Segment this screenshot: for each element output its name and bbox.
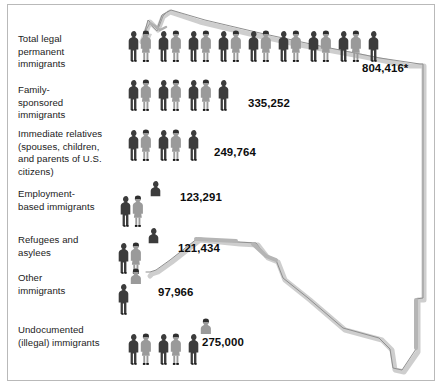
figure-pair	[278, 30, 302, 63]
row-value-undocumented: 275,000	[202, 336, 244, 348]
person-icon	[248, 30, 260, 63]
person-icon	[368, 30, 380, 63]
figure-pair	[120, 195, 144, 228]
row-figures-other-immigrants	[118, 268, 142, 316]
person-icon	[200, 79, 212, 112]
row-figures-total-legal	[128, 30, 380, 63]
figure-pair	[158, 129, 182, 162]
person-icon	[140, 30, 152, 63]
person-icon	[170, 333, 182, 366]
person-icon	[128, 79, 140, 112]
person-icon	[128, 30, 140, 63]
person-icon	[320, 30, 332, 63]
row-value-refugees-asylees: 121,434	[178, 242, 220, 254]
figure-pair	[218, 30, 242, 63]
figure-pair	[248, 30, 272, 63]
row-label-undocumented: Undocumented (illegal) immigrants	[18, 324, 100, 349]
person-icon	[218, 30, 230, 63]
person-icon	[230, 30, 242, 63]
row-value-total-legal: 804,416*	[362, 62, 408, 74]
person-icon	[290, 30, 302, 63]
person-icon	[140, 129, 152, 162]
figure-pair	[128, 79, 152, 112]
figure-pair	[158, 79, 182, 112]
person-icon	[350, 30, 362, 63]
person-icon	[170, 129, 182, 162]
row-label-family-sponsored: Family- sponsored immigrants	[18, 84, 65, 122]
person-icon	[260, 30, 272, 63]
figure-pair-half	[148, 227, 160, 275]
person-icon	[278, 30, 290, 63]
figure-pair	[218, 79, 230, 112]
person-half-icon	[148, 227, 160, 260]
figure-pair	[158, 30, 182, 63]
row-figures-employment-based	[120, 180, 162, 228]
row-figures-family-sponsored	[128, 79, 230, 112]
figure-pair	[188, 79, 212, 112]
row-figures-undocumented	[128, 318, 212, 366]
person-icon	[140, 333, 152, 366]
person-half-icon	[150, 180, 162, 213]
row-label-refugees-asylees: Refugees and asylees	[18, 234, 78, 259]
person-icon	[140, 79, 152, 112]
person-icon	[158, 129, 170, 162]
row-value-immediate-relatives: 249,764	[214, 146, 256, 158]
row-value-employment-based: 123,291	[180, 191, 222, 203]
row-value-family-sponsored: 335,252	[248, 97, 290, 109]
row-label-immediate-relatives: Immediate relatives (spouses, children, …	[18, 128, 102, 178]
person-icon	[338, 30, 350, 63]
person-icon	[118, 283, 130, 316]
figure-pair	[188, 129, 200, 162]
person-icon	[188, 333, 200, 366]
person-half-icon	[130, 268, 142, 301]
figure-pair	[118, 268, 142, 316]
pictogram-rows: Total legal permanent immigrants	[0, 0, 439, 385]
person-icon	[158, 333, 170, 366]
figure-pair-half	[150, 180, 162, 228]
person-icon	[188, 129, 200, 162]
person-icon	[308, 30, 320, 63]
person-icon	[158, 79, 170, 112]
immigration-pictogram-infographic: Total legal permanent immigrants	[0, 0, 439, 385]
row-label-total-legal: Total legal permanent immigrants	[18, 33, 65, 71]
figure-pair	[128, 129, 152, 162]
person-icon	[170, 30, 182, 63]
figure-pair	[128, 333, 152, 366]
figure-pair	[338, 30, 362, 63]
figure-pair	[368, 30, 380, 63]
row-label-employment-based: Employment- based immigrants	[18, 188, 95, 213]
figure-pair	[128, 30, 152, 63]
person-icon	[200, 30, 212, 63]
person-icon	[128, 129, 140, 162]
person-icon	[158, 30, 170, 63]
person-icon	[188, 79, 200, 112]
person-icon	[188, 30, 200, 63]
row-figures-immediate-relatives	[128, 129, 200, 162]
person-icon	[120, 195, 132, 228]
figure-pair	[308, 30, 332, 63]
figure-pair	[188, 30, 212, 63]
person-icon	[170, 79, 182, 112]
row-value-other-immigrants: 97,966	[158, 286, 193, 298]
person-icon	[218, 79, 230, 112]
person-icon	[132, 195, 144, 228]
row-label-other-immigrants: Other immigrants	[18, 272, 65, 297]
figure-pair	[158, 333, 182, 366]
person-icon	[128, 333, 140, 366]
